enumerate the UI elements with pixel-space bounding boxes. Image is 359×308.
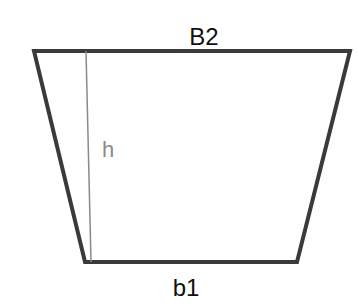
height-line xyxy=(86,51,91,262)
height-label: h xyxy=(102,137,114,162)
top-base-label: B2 xyxy=(189,23,218,50)
trapezoid-diagram: B2 h b1 xyxy=(0,0,359,308)
bottom-base-label: b1 xyxy=(173,274,200,301)
trapezoid-outline xyxy=(34,51,350,262)
